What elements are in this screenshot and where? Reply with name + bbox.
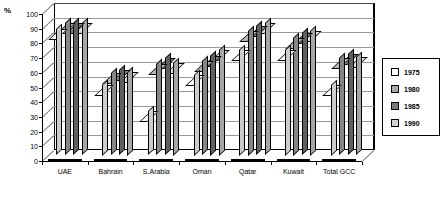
bar-side-face [202,56,208,155]
bar-front-face [156,159,164,161]
bar [277,55,285,161]
bar-side-face [73,18,79,156]
bar-front-face [322,159,330,161]
x-tick-label: Kuwait [283,168,304,175]
bar-front-face [48,159,56,161]
bar-side-face [127,66,133,155]
bar-front-face [210,159,218,161]
bar-side-face [339,53,345,155]
bar [231,55,239,161]
legend-swatch-icon [391,102,399,110]
bar-side-face [248,25,254,155]
axis-depth-edge [362,150,375,162]
bar [139,117,147,161]
legend-item[interactable]: 1975 [391,68,420,76]
y-tick-mark [39,102,42,103]
bar-front-face [148,159,156,161]
bar-side-face [148,106,154,155]
x-tick-label: UAE [58,168,72,175]
x-tick-mark [179,162,180,165]
bar-front-face [202,159,210,161]
bar-front-face [73,159,81,161]
plot-right-edge [374,3,375,150]
y-tick-label: 0 [34,158,38,165]
bar-front-face [256,159,264,161]
axis-depth-edge [42,18,55,30]
bar [94,90,102,161]
bar-side-face [119,65,125,156]
y-axis: 0102030405060708090100 [16,0,42,197]
bar-front-face [165,159,173,161]
bar-side-face [65,18,71,156]
y-tick-mark [39,73,42,74]
axis-depth-edge [42,3,55,15]
x-tick-label: Oman [192,168,211,175]
y-tick-mark [39,132,42,133]
y-tick-label: 20 [30,128,38,135]
bar-side-face [239,44,245,155]
legend-swatch-icon [391,68,399,76]
x-tick-mark [316,162,317,165]
legend-item[interactable]: 1980 [391,85,420,93]
bar [185,80,193,161]
bar-front-face [302,159,310,161]
bar-front-face [194,159,202,161]
legend-item-label: 1990 [404,120,420,127]
bar-side-face [348,49,354,156]
y-tick-label: 10 [30,143,38,150]
bar-side-face [173,57,179,155]
bar-side-face [194,69,200,155]
gridline [54,32,374,33]
y-tick-label: 100 [26,11,38,18]
bar-side-face [210,50,216,155]
bar-side-face [111,68,117,156]
y-tick-mark [39,146,42,147]
x-tick-mark [225,162,226,165]
x-tick-mark [271,162,272,165]
bar-side-face [219,44,225,155]
bar-side-face [165,53,171,155]
y-tick-mark [39,14,42,15]
y-tick-mark [39,58,42,59]
y-tick-label: 50 [30,84,38,91]
bar-front-face [111,159,119,161]
legend-item-label: 1975 [404,69,420,76]
legend-item[interactable]: 1985 [391,102,420,110]
legend-item-label: 1980 [404,86,420,93]
bar-front-face [239,159,247,161]
bar [48,35,56,161]
bar-side-face [82,18,88,156]
legend-swatch-icon [391,119,399,127]
y-tick-label: 30 [30,113,38,120]
y-tick-label: 80 [30,40,38,47]
legend-item[interactable]: 1990 [391,119,420,127]
bar-side-face [156,59,162,156]
y-tick-label: 90 [30,25,38,32]
bar-side-face [310,25,316,155]
x-tick-label: Total GCC [323,168,355,175]
bar-front-face [285,159,293,161]
gridline [54,3,374,4]
bar-side-face [102,80,108,156]
bar-front-face [102,159,110,161]
chart-legend: 1975198019851990 [382,58,440,136]
x-tick-mark [88,162,89,165]
y-tick-label: 70 [30,55,38,62]
y-tick-label: 40 [30,99,38,106]
bar [322,90,330,161]
bar-side-face [56,24,62,156]
bar-front-face [248,159,256,161]
y-tick-label: 60 [30,69,38,76]
y-axis-unit-label: % [4,6,11,15]
bar-side-face [356,52,362,156]
x-tick-label: Bahrain [98,168,122,175]
bar-front-face [94,159,102,161]
x-tick-label: S.Arabia [143,168,170,175]
bar-front-face [139,159,147,161]
bar-front-face [339,159,347,161]
x-tick-label: Qatar [239,168,257,175]
bar-side-face [285,44,291,155]
bar-front-face [293,159,301,161]
bar-front-face [277,159,285,161]
bar-side-face [256,21,262,156]
